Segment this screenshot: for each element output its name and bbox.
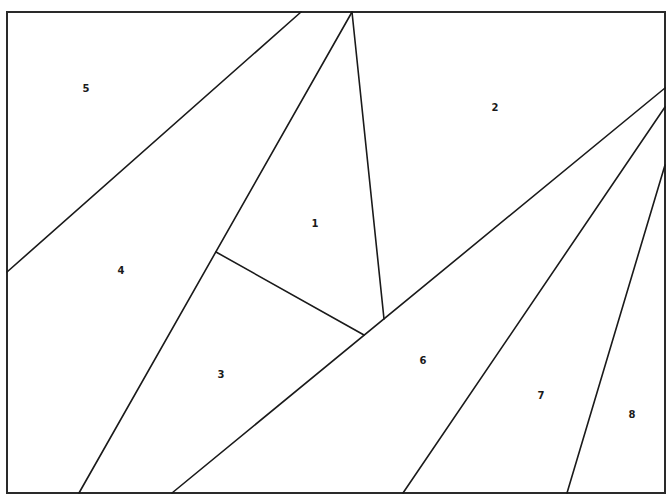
piece-label-1: 1 bbox=[312, 218, 319, 229]
piece-label-7: 7 bbox=[538, 390, 545, 401]
piece-label-6: 6 bbox=[420, 355, 427, 366]
piece-label-4: 4 bbox=[118, 265, 125, 276]
piece-label-2: 2 bbox=[492, 102, 499, 113]
piece-label-8: 8 bbox=[629, 409, 636, 420]
paper-piecing-diagram: 12345678 bbox=[0, 0, 672, 502]
piece-label-3: 3 bbox=[218, 369, 225, 380]
piece-label-5: 5 bbox=[83, 83, 90, 94]
